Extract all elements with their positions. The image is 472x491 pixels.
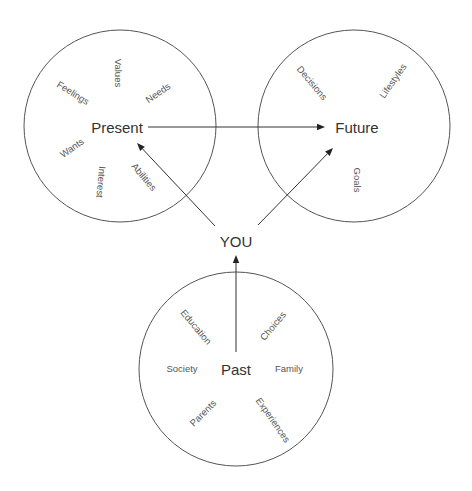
past-item-family: Family [289, 369, 317, 379]
item-label: Values [113, 59, 123, 87]
item-label: Goals [352, 168, 362, 193]
you-to-future-arrow [258, 148, 333, 225]
item-label: Interest [95, 166, 107, 198]
present-to-future-arrow [148, 124, 325, 130]
item-label: Society [166, 364, 197, 374]
future-item-goals: Goals [348, 180, 358, 205]
past-item-society: Society [182, 369, 213, 379]
item-label: Family [275, 364, 303, 374]
past-title-text: Past [221, 362, 251, 377]
past-title: Past [236, 369, 266, 384]
present-title: Present [117, 127, 169, 142]
past-to-you-arrow [233, 255, 239, 352]
present-title-text: Present [91, 120, 143, 135]
future-title-text: Future [335, 120, 378, 135]
future-title: Future [357, 127, 400, 142]
arrowhead-icon [233, 255, 239, 263]
you-label-text: YOU [220, 234, 253, 249]
present-item-values: Values [109, 73, 119, 101]
arrowhead-icon [317, 124, 325, 130]
you-label: YOU [236, 241, 269, 256]
